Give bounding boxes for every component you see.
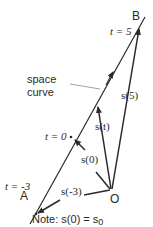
curve-label-leader <box>70 84 100 89</box>
label-t5: t = 5 <box>110 25 132 37</box>
label-s5: s(5) <box>121 89 138 102</box>
space-curve-line <box>30 17 145 224</box>
label-O: O <box>110 192 119 206</box>
vector-s-3 <box>84 190 110 195</box>
point-t0 <box>70 136 73 139</box>
curve-direction-arrow <box>106 72 113 85</box>
label-t0: t = 0 <box>45 130 67 142</box>
vector-s-3-tip <box>38 200 60 213</box>
label-s0: s(0) <box>81 153 98 166</box>
vector-s0-tip <box>75 140 85 150</box>
space-curve-diagram: B t = 5 space curve s(5) s(t) t = 0 s(0)… <box>0 0 153 227</box>
note-subscript: 0 <box>98 217 103 227</box>
label-A: A <box>20 189 28 203</box>
note-text: Note: s(0) = s <box>32 213 99 225</box>
label-curve: curve <box>27 86 54 98</box>
vector-s0 <box>96 172 110 189</box>
label-B: B <box>132 9 140 23</box>
label-space: space <box>27 73 56 85</box>
label-st: s(t) <box>95 120 110 133</box>
label-s-3: s(-3) <box>61 185 82 198</box>
note: Note: s(0) = s0 <box>32 213 103 227</box>
